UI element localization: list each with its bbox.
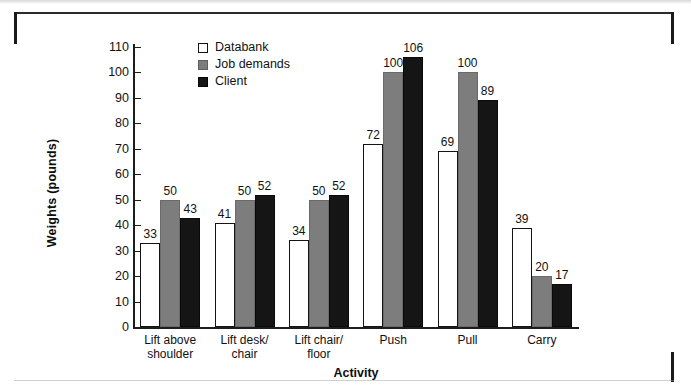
legend-swatch-icon xyxy=(198,77,208,87)
bar-group: 335043 xyxy=(140,47,200,327)
y-axis-tick-label: 30 xyxy=(84,245,129,258)
category-label-line: floor xyxy=(269,347,369,361)
y-axis-tick xyxy=(135,327,141,328)
y-axis-tick-label: 50 xyxy=(84,194,129,207)
bar[interactable] xyxy=(215,223,235,327)
y-axis-title: Weights (pounds) xyxy=(45,113,59,273)
legend-item[interactable]: Job demands xyxy=(198,57,290,72)
y-axis-tick-label: 60 xyxy=(84,168,129,181)
y-axis-tick-label: 10 xyxy=(84,296,129,309)
figure-canvas: 0102030405060708090100110 Weights (pound… xyxy=(0,0,691,392)
bar[interactable] xyxy=(329,195,349,327)
legend-item[interactable]: Databank xyxy=(198,40,290,55)
legend-swatch-icon xyxy=(198,43,208,53)
bar-value-label: 89 xyxy=(469,85,507,97)
bar-value-label: 39 xyxy=(503,213,541,225)
bar-chart: 0102030405060708090100110 Weights (pound… xyxy=(0,0,691,392)
y-axis-tick-label: 40 xyxy=(84,219,129,232)
y-axis-tick-label: 20 xyxy=(84,270,129,283)
bar-value-label: 17 xyxy=(543,269,581,281)
x-axis-category-label: Carry xyxy=(492,333,592,347)
x-axis-title: Activity xyxy=(133,366,579,380)
bar[interactable] xyxy=(160,200,180,327)
bar-value-label: 50 xyxy=(151,185,189,197)
bar[interactable] xyxy=(458,72,478,327)
y-axis-tick-label: 100 xyxy=(84,66,129,79)
bar[interactable] xyxy=(180,218,200,327)
bar[interactable] xyxy=(552,284,572,327)
bar-group: 345052 xyxy=(289,47,349,327)
bar[interactable] xyxy=(289,240,309,327)
legend-label: Databank xyxy=(215,41,269,54)
bar-value-label: 100 xyxy=(449,57,487,69)
bar[interactable] xyxy=(438,151,458,327)
bar[interactable] xyxy=(363,144,383,327)
x-axis-line xyxy=(133,327,579,329)
y-axis-tick-label: 110 xyxy=(84,41,129,54)
bar-value-label: 52 xyxy=(320,180,358,192)
legend-swatch-icon xyxy=(198,60,208,70)
y-axis-tick-label: 80 xyxy=(84,117,129,130)
legend-item[interactable]: Client xyxy=(198,74,290,89)
bar[interactable] xyxy=(235,200,255,327)
bar-value-label: 52 xyxy=(246,180,284,192)
legend-label: Client xyxy=(215,75,247,88)
bar-group: 392017 xyxy=(512,47,572,327)
bar-group: 6910089 xyxy=(438,47,498,327)
bar[interactable] xyxy=(255,195,275,327)
y-axis-tick-label: 0 xyxy=(84,321,129,334)
legend-label: Job demands xyxy=(215,58,290,71)
bar[interactable] xyxy=(532,276,552,327)
bar[interactable] xyxy=(309,200,329,327)
bar[interactable] xyxy=(403,57,423,327)
bar[interactable] xyxy=(512,228,532,327)
y-axis-tick-label: 70 xyxy=(84,143,129,156)
bar[interactable] xyxy=(140,243,160,327)
legend: DatabankJob demandsClient xyxy=(198,40,290,91)
category-label-line: Carry xyxy=(492,333,592,347)
bar-value-label: 43 xyxy=(171,203,209,215)
bar[interactable] xyxy=(478,100,498,327)
bar-group: 72100106 xyxy=(363,47,423,327)
bar-value-label: 106 xyxy=(394,42,432,54)
y-axis-tick-label: 90 xyxy=(84,92,129,105)
bar[interactable] xyxy=(383,72,403,327)
